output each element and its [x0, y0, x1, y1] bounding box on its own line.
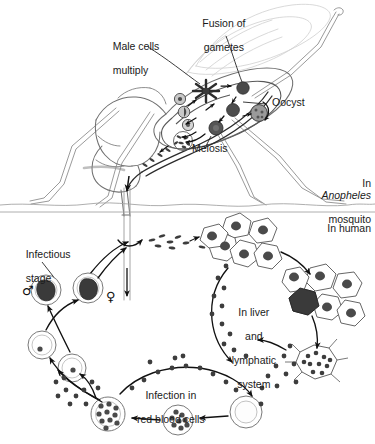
liver-line1: In liver — [238, 306, 269, 318]
mosquito-maxillary-palp — [84, 167, 124, 170]
male-symbol: ♂ — [22, 284, 34, 297]
label-meiosis: Meiosis — [192, 142, 228, 154]
label-in-liver-and-lymphatic-system: In liver and lymphatic system — [210, 294, 286, 402]
liver-cell-cluster-primary — [200, 213, 282, 269]
mosquito-label-genus: Anopheles — [321, 189, 371, 201]
liver-line2: and — [245, 330, 263, 342]
label-infection-in-red-blood-cells: Infection in red blood cells — [113, 377, 217, 437]
female-symbol: ♀ — [106, 290, 116, 303]
fusion-line2: gametes — [204, 41, 244, 53]
infectious-line1: Infectious — [26, 248, 71, 260]
ring-stage-rbc-upper — [28, 331, 56, 359]
label-oocyst: Oocyst — [272, 96, 305, 108]
mosquito-label-in: In — [362, 177, 371, 189]
zygote-cell — [237, 82, 249, 94]
male-cells-line2: multiply — [113, 64, 149, 76]
bite-to-blood-arrows — [90, 237, 199, 274]
exflagellating-male-gametocyte — [193, 80, 219, 102]
liver-line3: lymphatic — [232, 354, 276, 366]
mosquito-head-thorax-detail — [96, 87, 166, 166]
salivary-gland-arrow — [127, 176, 129, 191]
rbc-line1: Infection in — [145, 389, 196, 401]
heavily-infected-liver-cell — [289, 288, 319, 315]
rbc-line2: red blood cells — [137, 413, 205, 425]
label-fusion-of-gametes: Fusion of gametes — [175, 5, 261, 65]
sporozoite-mass-in-gland — [173, 132, 192, 151]
ookinete-cell — [227, 104, 240, 117]
label-male-cells-multiply: Male cells multiply — [101, 28, 159, 88]
mosquito-stage-cells — [142, 80, 268, 168]
malaria-life-cycle-figure: Male cells multiply Fusion of gametes Oo… — [0, 0, 375, 444]
male-cells-line1: Male cells — [113, 40, 160, 52]
oocyst-cell — [251, 105, 268, 122]
gametocyte-to-mosquito-arrows — [98, 248, 126, 278]
label-in-human: In human — [285, 222, 371, 234]
liver-cell-cluster-infected — [282, 264, 365, 326]
rupturing-liver-cell — [285, 339, 348, 382]
liver-line4: system — [237, 378, 270, 390]
fusion-line1: Fusion of — [202, 17, 245, 29]
